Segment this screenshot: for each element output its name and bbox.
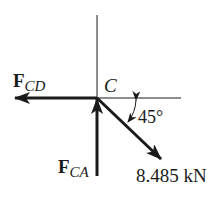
force-cd-label: FCD: [13, 71, 45, 90]
force-cd-symbol: F: [13, 70, 25, 91]
force-ca-subscript: CA: [70, 164, 89, 180]
angle-arc: [128, 100, 136, 122]
applied-force-magnitude: 8.485 kN: [136, 166, 207, 185]
force-ca-symbol: F: [58, 156, 70, 177]
point-c-label: C: [104, 76, 117, 95]
force-ca-label: FCA: [58, 157, 89, 176]
angle-label: 45°: [138, 108, 163, 126]
force-cd-subscript: CD: [25, 78, 46, 94]
free-body-diagram: FCD C 45° FCA 8.485 kN: [0, 0, 219, 197]
